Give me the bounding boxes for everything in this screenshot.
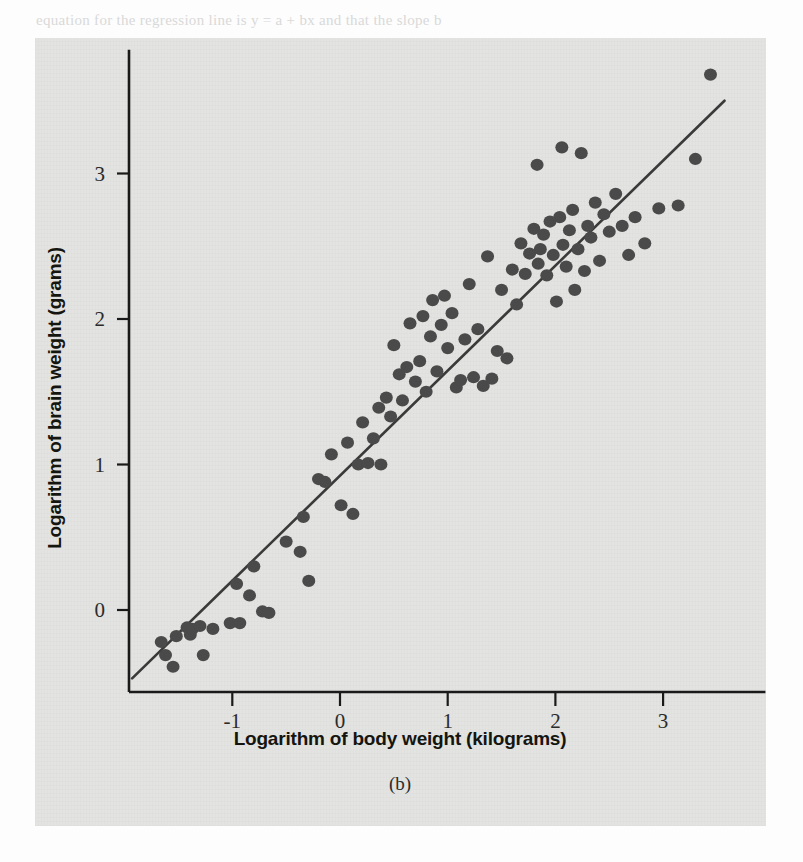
data-point xyxy=(243,589,256,601)
background-text-line: equation for the regression line is y = … xyxy=(36,12,442,29)
figure-caption: (b) xyxy=(389,773,411,795)
data-point xyxy=(589,196,602,208)
data-point xyxy=(584,231,597,243)
data-point xyxy=(280,536,293,548)
data-point xyxy=(629,211,642,223)
data-point xyxy=(597,208,610,220)
data-point xyxy=(454,374,467,386)
data-point xyxy=(519,268,532,280)
figure-panel: 0123-10123 Logarithm of body weight (kil… xyxy=(35,38,766,826)
y-axis-title: Logarithm of brain weight (grams) xyxy=(44,247,65,549)
data-point xyxy=(547,249,560,261)
data-point xyxy=(603,226,616,238)
data-point xyxy=(704,68,717,80)
y-tick-label: 2 xyxy=(95,307,106,331)
scatter-plot: 0123-10123 Logarithm of body weight (kil… xyxy=(35,38,766,826)
data-point xyxy=(540,269,553,281)
data-point xyxy=(534,243,547,255)
data-point xyxy=(420,386,433,398)
data-point xyxy=(553,211,566,223)
data-point xyxy=(294,546,307,558)
data-point xyxy=(514,237,527,249)
data-point xyxy=(335,499,348,511)
data-point xyxy=(362,457,375,469)
data-point xyxy=(396,394,409,406)
data-point xyxy=(318,476,331,488)
data-point xyxy=(689,153,702,165)
data-point xyxy=(578,265,591,277)
data-point xyxy=(555,141,568,153)
data-point xyxy=(297,511,310,523)
data-point xyxy=(550,295,563,307)
data-point xyxy=(532,258,545,270)
scatter-points xyxy=(155,68,717,672)
data-point xyxy=(435,319,448,331)
data-point xyxy=(380,391,393,403)
data-point xyxy=(467,371,480,383)
x-axis-title: Logarithm of body weight (kilograms) xyxy=(234,728,567,749)
data-point xyxy=(262,607,275,619)
data-point xyxy=(247,560,260,572)
data-point xyxy=(404,317,417,329)
data-point xyxy=(458,333,471,345)
data-point xyxy=(233,617,246,629)
data-point xyxy=(438,290,451,302)
data-point xyxy=(155,636,168,648)
data-point xyxy=(325,448,338,460)
data-point xyxy=(500,352,513,364)
data-point xyxy=(387,339,400,351)
data-point xyxy=(430,365,443,377)
data-point xyxy=(575,147,588,159)
data-point xyxy=(372,402,385,414)
data-point xyxy=(167,661,180,673)
data-point xyxy=(346,508,359,520)
data-point xyxy=(471,323,484,335)
data-point xyxy=(302,575,315,587)
data-point xyxy=(341,437,354,449)
data-point xyxy=(537,229,550,241)
data-point xyxy=(409,375,422,387)
data-point xyxy=(556,239,569,251)
data-point xyxy=(424,330,437,342)
data-point xyxy=(197,649,210,661)
data-point xyxy=(566,204,579,216)
x-tick-label: 3 xyxy=(658,709,669,733)
data-point xyxy=(400,361,413,373)
data-point xyxy=(230,578,243,590)
data-point xyxy=(572,243,585,255)
data-point xyxy=(485,373,498,385)
data-point xyxy=(193,620,206,632)
data-point xyxy=(593,255,606,267)
data-point xyxy=(510,298,523,310)
data-point xyxy=(560,261,573,273)
data-point xyxy=(170,630,183,642)
data-point xyxy=(609,188,622,200)
data-point xyxy=(384,410,397,422)
data-point xyxy=(374,458,387,470)
data-point xyxy=(159,649,172,661)
data-point xyxy=(413,355,426,367)
y-tick-label: 3 xyxy=(95,162,106,186)
data-point xyxy=(495,284,508,296)
y-tick-label: 0 xyxy=(95,598,106,622)
data-point xyxy=(463,278,476,290)
data-point xyxy=(581,220,594,232)
data-point xyxy=(356,416,369,428)
data-point xyxy=(531,159,544,171)
data-point xyxy=(638,237,651,249)
data-point xyxy=(426,294,439,306)
data-point xyxy=(206,623,219,635)
data-point xyxy=(506,263,519,275)
data-point xyxy=(568,284,581,296)
y-tick-label: 1 xyxy=(95,453,106,477)
data-point xyxy=(563,224,576,236)
data-point xyxy=(446,307,459,319)
data-point xyxy=(622,249,635,261)
data-point xyxy=(652,202,665,214)
data-point xyxy=(672,199,685,211)
data-point xyxy=(367,432,380,444)
data-point xyxy=(481,250,494,262)
data-point xyxy=(416,310,429,322)
data-point xyxy=(441,342,454,354)
data-point xyxy=(616,220,629,232)
